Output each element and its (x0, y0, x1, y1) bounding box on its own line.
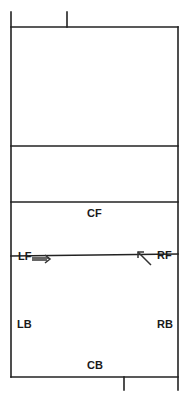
position-label-rb: RB (157, 318, 173, 330)
attack-line (11, 254, 178, 256)
position-label-lf: LF (18, 250, 32, 262)
position-label-cf: CF (87, 207, 102, 219)
court-diagram: CF LF RF LB RB CB (0, 0, 192, 401)
position-label-lb: LB (17, 318, 32, 330)
position-label-rf: RF (157, 249, 172, 261)
position-label-cb: CB (87, 359, 103, 371)
